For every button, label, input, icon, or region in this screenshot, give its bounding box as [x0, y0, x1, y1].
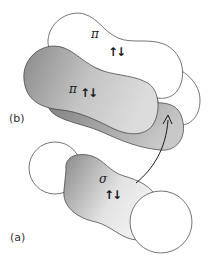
orbital-diagram: π ↑↓ π ↑↓ σ ↑↓ (b) (a) [0, 0, 211, 265]
sigma-symbol: σ [99, 173, 107, 185]
sigma-right-lobe [130, 191, 192, 253]
pi-back-spin-pair: ↑↓ [108, 46, 124, 58]
orbital-drawing [0, 0, 211, 265]
pi-back-symbol: π [91, 28, 99, 40]
pi-front-spin-pair: ↑↓ [80, 87, 96, 99]
pi-front-symbol: π [69, 83, 77, 95]
panel-label-b: (b) [9, 113, 25, 124]
panel-label-a: (a) [10, 232, 25, 243]
sigma-spin-pair: ↑↓ [104, 189, 120, 201]
